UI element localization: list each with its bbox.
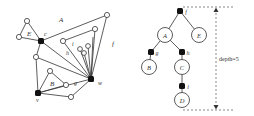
vertex-label-v: v [36, 97, 39, 103]
right-tree [142, 8, 207, 108]
vertex-v [35, 90, 41, 96]
tree-label-A: A [162, 32, 167, 39]
vertex [78, 47, 83, 52]
figure: A E c f i h B g w v f [0, 0, 254, 116]
depth-label: depth=5 [219, 56, 239, 62]
vertex [16, 34, 21, 39]
tree-node-i [179, 83, 185, 89]
vertex [47, 68, 52, 73]
edge [36, 57, 38, 93]
face-label-h: h [66, 50, 69, 56]
tree-label-h: h [187, 50, 190, 56]
tree-node-g [148, 49, 154, 55]
tree-label-B: B [147, 64, 151, 71]
tree-label-C: C [180, 64, 185, 71]
face-label-g: g [74, 80, 77, 86]
vertex [63, 82, 68, 87]
face-label-f: f [112, 40, 115, 48]
vertex [82, 51, 87, 56]
vertex-label-c: c [44, 31, 47, 37]
tree-label-D: D [179, 97, 185, 104]
tree-labels: f A E g h B C i D [147, 9, 201, 104]
tree-node-h [179, 49, 185, 55]
vertex [92, 26, 97, 31]
vertex-c [38, 38, 44, 44]
vertex [33, 54, 38, 59]
tree-label-g: g [156, 50, 159, 56]
face-label-B: B [50, 80, 55, 88]
vertex [104, 12, 109, 17]
vertex [24, 18, 29, 23]
tree-label-E: E [196, 32, 201, 39]
vertex [86, 44, 91, 49]
tree-label-f: f [185, 9, 188, 15]
arrow-up-icon [214, 8, 219, 13]
edge [38, 93, 71, 97]
face-label-A: A [58, 16, 64, 24]
face-label-E: E [26, 30, 32, 38]
vertex-w [88, 76, 94, 82]
tree-label-i: i [187, 84, 189, 90]
face-label-i: i [72, 41, 74, 47]
vertex-label-w: w [98, 80, 102, 86]
arrow-down-icon [214, 105, 219, 110]
vertex [60, 38, 65, 43]
left-planar-graph [16, 12, 109, 99]
tree-node-f [177, 8, 183, 14]
vertex [68, 94, 73, 99]
